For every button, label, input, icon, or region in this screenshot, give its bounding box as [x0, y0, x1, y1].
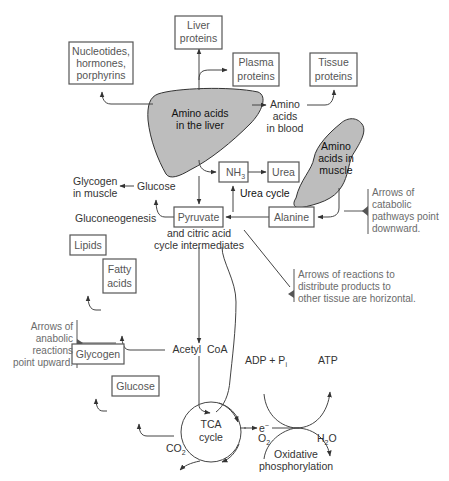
svg-text:TCA: TCA: [201, 418, 222, 430]
svg-text:Tissue: Tissue: [318, 56, 349, 68]
svg-text:Amino: Amino: [270, 98, 300, 110]
liver-proteins-box: Liver proteins: [175, 16, 222, 49]
svg-text:proteins: proteins: [315, 70, 352, 82]
svg-text:Pyruvate: Pyruvate: [178, 211, 220, 223]
urea-cycle-label: Urea cycle: [240, 187, 290, 199]
svg-text:Oxidative: Oxidative: [274, 448, 318, 460]
nucleotides-box: Nucleotides, hormones, porphyrins: [69, 42, 133, 84]
liver-label: Amino acids in the liver: [171, 107, 228, 131]
atp-label: ATP: [318, 354, 338, 366]
svg-text:Amino acids: Amino acids: [171, 107, 228, 119]
svg-text:in blood: in blood: [267, 122, 304, 134]
svg-text:Glycogen: Glycogen: [73, 175, 118, 187]
svg-text:Glucose: Glucose: [116, 380, 155, 392]
fatty-acids-box: Fatty acids: [103, 259, 136, 293]
svg-text:Arrows of reactions to: Arrows of reactions to: [298, 269, 395, 280]
svg-text:Liver: Liver: [187, 19, 210, 31]
tca-cycle-label: TCA cycle: [199, 418, 223, 443]
svg-text:Alanine: Alanine: [274, 211, 309, 223]
svg-text:proteins: proteins: [180, 32, 217, 44]
svg-text:acids: acids: [273, 110, 298, 122]
svg-text:Lipids: Lipids: [74, 239, 101, 251]
catabolic-note: Arrows of catabolic pathways point downw…: [372, 187, 439, 234]
svg-text:cycle: cycle: [199, 431, 223, 443]
svg-text:Urea: Urea: [272, 166, 295, 178]
adp-label: ADP + Pi: [245, 354, 287, 368]
svg-text:proteins: proteins: [237, 70, 274, 82]
svg-text:and citric acid: and citric acid: [167, 227, 231, 239]
glycogen-box: Glycogen: [72, 344, 124, 364]
tissue-proteins-box: Tissue proteins: [310, 53, 357, 86]
svg-text:phosphorylation: phosphorylation: [259, 460, 333, 472]
svg-text:catabolic: catabolic: [372, 199, 411, 210]
svg-text:distribute products to: distribute products to: [298, 281, 391, 292]
glycogen-muscle-label: Glycogen in muscle: [73, 175, 118, 199]
svg-text:pathways point: pathways point: [372, 211, 439, 222]
svg-text:Fatty: Fatty: [108, 263, 132, 275]
svg-text:other tissue are horizontal.: other tissue are horizontal.: [298, 293, 416, 304]
svg-text:point upward.: point upward.: [13, 357, 73, 368]
distribute-note: Arrows of reactions to distribute produc…: [298, 269, 416, 304]
plasma-proteins-box: Plasma proteins: [233, 53, 279, 86]
muscle-label: Amino acids in muscle: [318, 140, 354, 176]
svg-text:muscle: muscle: [319, 164, 352, 176]
nh3-box: NH3: [219, 162, 248, 182]
glucose-box: Glucose: [112, 376, 159, 396]
amino-acid-metabolism-diagram: Liver proteins Nucleotides, hormones, po…: [0, 0, 449, 481]
svg-text:Arrows of: Arrows of: [31, 321, 73, 332]
svg-text:Arrows of: Arrows of: [372, 187, 414, 198]
pyruvate-sub-label: and citric acid cycle intermediates: [154, 227, 244, 251]
svg-text:acids in: acids in: [318, 152, 354, 164]
svg-text:in the liver: in the liver: [176, 119, 224, 131]
acetyl-coa-label: Acetyl CoA: [173, 343, 228, 355]
svg-text:Glycogen: Glycogen: [76, 348, 121, 360]
urea-box: Urea: [268, 162, 299, 182]
svg-text:cycle intermediates: cycle intermediates: [154, 239, 244, 251]
glucose-label: Glucose: [137, 180, 176, 192]
pyruvate-box: Pyruvate: [174, 207, 223, 227]
lipids-box: Lipids: [70, 235, 106, 255]
svg-text:Nucleotides,: Nucleotides,: [72, 45, 130, 57]
svg-text:porphyrins: porphyrins: [76, 69, 125, 81]
oxidative-phosphorylation-label: Oxidative phosphorylation: [259, 448, 333, 472]
alanine-box: Alanine: [269, 207, 314, 227]
svg-text:reactions: reactions: [32, 345, 73, 356]
h2o-label: H2O: [317, 432, 337, 446]
svg-text:in muscle: in muscle: [73, 187, 118, 199]
svg-text:acids: acids: [107, 277, 132, 289]
co2-label: CO2: [166, 442, 186, 456]
anabolic-note: Arrows of anabolic reactions point upwar…: [13, 321, 73, 368]
svg-text:Plasma: Plasma: [238, 56, 273, 68]
gluconeogenesis-label: Gluconeogenesis: [75, 212, 156, 224]
amino-acids-blood-label: Amino acids in blood: [267, 98, 304, 134]
svg-text:anabolic: anabolic: [36, 333, 73, 344]
svg-text:Amino: Amino: [321, 140, 351, 152]
svg-text:downward.: downward.: [372, 223, 420, 234]
o2-label: O2: [258, 432, 270, 446]
svg-text:hormones,: hormones,: [76, 57, 126, 69]
